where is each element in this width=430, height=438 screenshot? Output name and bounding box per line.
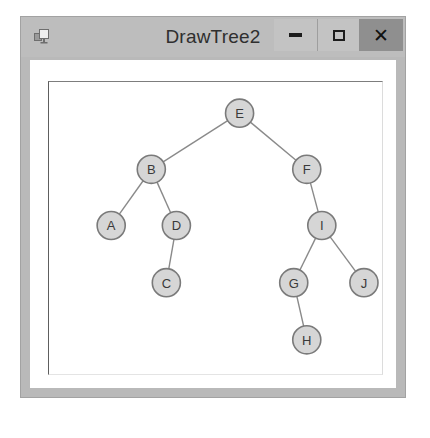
close-icon: ✕ [373, 26, 389, 45]
tree-node-label: G [289, 276, 299, 291]
tree-node: D [162, 211, 190, 239]
maximize-icon [333, 30, 345, 41]
tree-edge [300, 238, 316, 270]
tree-node: F [293, 155, 321, 183]
tree-node: G [280, 269, 308, 297]
tree-node-label: A [107, 218, 116, 233]
tree-drawing-panel[interactable]: EBFADICGJH [48, 81, 383, 375]
binary-tree-graphic: EBFADICGJH [49, 82, 382, 374]
tree-node: H [293, 326, 321, 354]
tree-node-label: I [320, 218, 324, 233]
tree-node-label: H [302, 333, 311, 348]
minimize-icon [289, 33, 302, 37]
client-area: EBFADICGJH [30, 60, 396, 388]
tree-node: I [308, 211, 336, 239]
tree-node: J [350, 269, 378, 297]
tree-node-label: F [303, 162, 311, 177]
tree-edge [310, 183, 318, 212]
form-window-icon [34, 29, 50, 44]
tree-node: C [152, 269, 180, 297]
maximize-button[interactable] [317, 19, 360, 51]
tree-edge [330, 237, 355, 272]
minimize-button[interactable] [274, 19, 317, 51]
tree-node: A [97, 211, 125, 239]
tree-node-label: D [172, 218, 181, 233]
tree-edge [157, 182, 171, 213]
tree-node-label: E [235, 106, 244, 121]
tree-node: E [226, 99, 254, 127]
tree-edge [250, 122, 296, 160]
tree-edge [119, 181, 143, 214]
tree-node-label: J [361, 276, 368, 291]
tree-edge [169, 239, 174, 269]
tree-node-label: B [147, 162, 156, 177]
tree-node: B [137, 155, 165, 183]
tree-node-label: C [162, 276, 171, 291]
close-button[interactable]: ✕ [359, 19, 403, 51]
tree-edge [297, 296, 304, 326]
tree-edge [163, 121, 228, 162]
application-window: DrawTree2 ✕ EBFADICGJH [20, 16, 406, 398]
tree-nodes: EBFADICGJH [97, 99, 378, 354]
title-bar[interactable]: DrawTree2 ✕ [21, 17, 405, 57]
